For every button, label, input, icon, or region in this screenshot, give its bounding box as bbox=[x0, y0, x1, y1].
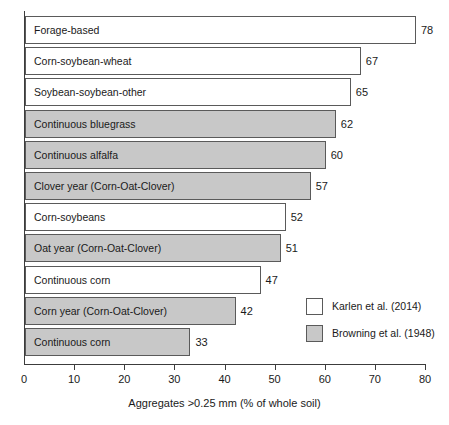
x-axis-tick bbox=[74, 365, 75, 370]
x-axis-tick-label: 10 bbox=[68, 373, 80, 385]
bar-value-label: 57 bbox=[316, 172, 328, 200]
bar-row[interactable]: Corn-soybeans52 bbox=[25, 203, 426, 231]
x-axis-tick bbox=[425, 365, 426, 370]
x-axis-tick-label: 60 bbox=[319, 373, 331, 385]
x-axis-tick bbox=[275, 365, 276, 370]
bar-category-label: Continuous corn bbox=[34, 266, 110, 294]
bar-value-label: 67 bbox=[366, 47, 378, 75]
bar-category-label: Corn-soybeans bbox=[34, 203, 105, 231]
bar-value-label: 47 bbox=[266, 266, 278, 294]
x-axis-tick-label: 80 bbox=[419, 373, 431, 385]
x-axis-tick bbox=[124, 365, 125, 370]
x-axis-tick bbox=[225, 365, 226, 370]
x-axis-tick bbox=[325, 365, 326, 370]
x-axis-tick bbox=[174, 365, 175, 370]
bar-row[interactable]: Corn-soybean-wheat67 bbox=[25, 47, 426, 75]
bar-category-label: Corn-soybean-wheat bbox=[34, 47, 131, 75]
x-axis-tick-label: 20 bbox=[118, 373, 130, 385]
bar-row[interactable]: Oat year (Corn-Oat-Clover)51 bbox=[25, 234, 426, 262]
bar-category-label: Soybean-soybean-other bbox=[34, 78, 146, 106]
legend-label: Browning et al. (1948) bbox=[332, 323, 435, 344]
bar-value-label: 51 bbox=[286, 234, 298, 262]
x-axis-title: Aggregates >0.25 mm (% of whole soil) bbox=[24, 397, 425, 409]
bar-chart: Forage-based78Corn-soybean-wheat67Soybea… bbox=[0, 0, 449, 425]
bar-row[interactable]: Soybean-soybean-other65 bbox=[25, 78, 426, 106]
legend-label: Karlen et al. (2014) bbox=[332, 296, 421, 317]
bar-row[interactable]: Forage-based78 bbox=[25, 16, 426, 44]
bar-row[interactable]: Continuous corn47 bbox=[25, 266, 426, 294]
bar-category-label: Oat year (Corn-Oat-Clover) bbox=[34, 234, 161, 262]
bar-row[interactable]: Clover year (Corn-Oat-Clover)57 bbox=[25, 172, 426, 200]
legend-swatch bbox=[306, 325, 323, 342]
legend-swatch bbox=[306, 298, 323, 315]
x-axis-tick-label: 30 bbox=[168, 373, 180, 385]
bar-row[interactable]: Continuous alfalfa60 bbox=[25, 141, 426, 169]
x-axis-tick-label: 40 bbox=[218, 373, 230, 385]
bar-value-label: 78 bbox=[421, 16, 433, 44]
x-axis-tick bbox=[375, 365, 376, 370]
bar-row[interactable]: Continuous bluegrass62 bbox=[25, 110, 426, 138]
bar-category-label: Forage-based bbox=[34, 16, 99, 44]
bar-value-label: 42 bbox=[241, 297, 253, 325]
bar-category-label: Corn year (Corn-Oat-Clover) bbox=[34, 297, 167, 325]
x-axis-tick-label: 0 bbox=[21, 373, 27, 385]
bar-value-label: 62 bbox=[341, 110, 353, 138]
bar-value-label: 52 bbox=[291, 203, 303, 231]
bar-value-label: 65 bbox=[356, 78, 368, 106]
bar-value-label: 60 bbox=[331, 141, 343, 169]
bar-category-label: Clover year (Corn-Oat-Clover) bbox=[34, 172, 175, 200]
bar-category-label: Continuous alfalfa bbox=[34, 141, 118, 169]
x-axis-tick-label: 70 bbox=[369, 373, 381, 385]
bar-category-label: Continuous corn bbox=[34, 328, 110, 356]
bar-category-label: Continuous bluegrass bbox=[34, 110, 136, 138]
x-axis-tick-label: 50 bbox=[269, 373, 281, 385]
bar-value-label: 33 bbox=[195, 328, 207, 356]
